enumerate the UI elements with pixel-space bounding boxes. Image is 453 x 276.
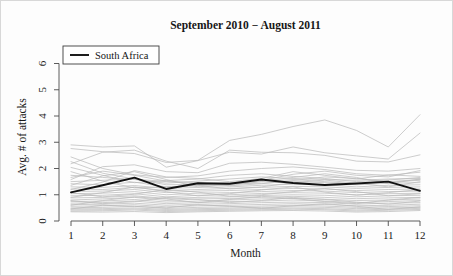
x-tick-label: 7: [259, 229, 265, 241]
x-tick-label: 11: [383, 229, 394, 241]
y-tick-label: 6: [36, 60, 48, 66]
series-line: [71, 115, 420, 163]
chart-title: September 2010 − August 2011: [170, 19, 321, 32]
y-tick-label: 4: [36, 113, 48, 119]
y-tick-label: 5: [36, 87, 48, 93]
y-axis-title: Avg. # of attacks: [16, 98, 29, 176]
x-tick-label: 4: [163, 229, 169, 241]
y-tick-label: 2: [36, 166, 48, 172]
legend-label-south-africa: South Africa: [95, 50, 149, 61]
background-series-group: [71, 115, 420, 213]
x-tick-label: 8: [290, 229, 296, 241]
x-tick-label: 6: [227, 229, 233, 241]
y-tick-label: 1: [36, 192, 48, 198]
x-tick-label: 9: [322, 229, 328, 241]
x-axis-title: Month: [230, 247, 261, 259]
x-tick-label: 2: [100, 229, 106, 241]
x-tick-label: 5: [195, 229, 201, 241]
x-tick-label: 10: [351, 229, 363, 241]
x-tick-label: 3: [132, 229, 138, 241]
y-tick-label: 3: [36, 139, 48, 145]
x-tick-label: 12: [415, 229, 426, 241]
x-tick-label: 1: [68, 229, 74, 241]
figure-container: September 2010 − August 2011123456789101…: [0, 0, 453, 276]
chart-canvas: September 2010 − August 2011123456789101…: [1, 1, 453, 276]
series-line: [71, 133, 420, 167]
y-tick-label: 0: [36, 218, 48, 224]
